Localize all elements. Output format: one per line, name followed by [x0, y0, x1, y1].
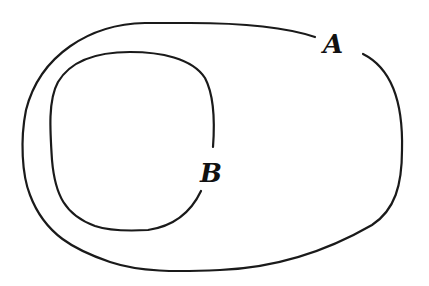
curve-b	[50, 52, 213, 231]
label-b: B	[199, 158, 222, 188]
diagram-canvas: A B	[0, 0, 429, 286]
label-a: A	[320, 29, 343, 59]
